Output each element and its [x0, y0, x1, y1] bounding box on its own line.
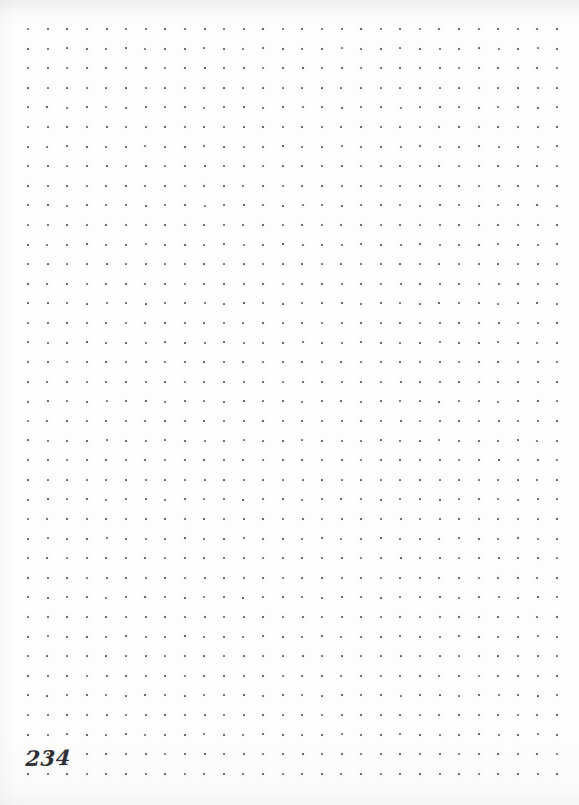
grid-dot	[498, 48, 500, 50]
grid-dot	[497, 204, 499, 206]
grid-dot	[144, 185, 146, 187]
grid-dot	[282, 263, 284, 265]
grid-dot	[399, 67, 401, 69]
grid-dot	[478, 557, 480, 559]
grid-dot	[478, 185, 480, 187]
grid-dot	[301, 420, 303, 422]
grid-dot	[536, 165, 538, 167]
grid-dot	[242, 636, 244, 638]
grid-dot	[262, 695, 264, 697]
grid-dot	[438, 675, 440, 677]
grid-dot	[223, 263, 225, 265]
grid-dot	[360, 675, 362, 677]
grid-dot	[105, 204, 107, 206]
grid-dot	[262, 204, 264, 206]
grid-dot	[399, 498, 401, 500]
grid-dot	[262, 263, 264, 265]
grid-dot	[47, 577, 49, 579]
grid-dot	[262, 518, 264, 520]
grid-dot	[184, 106, 186, 108]
grid-dot	[321, 675, 323, 677]
grid-dot	[537, 538, 539, 540]
grid-dot	[27, 302, 29, 304]
grid-dot	[86, 204, 88, 206]
grid-dot	[458, 185, 460, 187]
grid-dot	[47, 342, 49, 344]
grid-dot	[47, 479, 49, 481]
grid-dot	[242, 185, 244, 187]
grid-dot	[184, 459, 186, 461]
grid-dot	[497, 28, 499, 30]
grid-dot	[517, 753, 519, 755]
grid-dot	[301, 126, 303, 128]
grid-dot	[302, 106, 304, 108]
grid-dot	[478, 400, 480, 402]
grid-dot	[86, 734, 88, 736]
grid-dot	[419, 538, 421, 540]
grid-dot	[478, 145, 480, 147]
grid-dot	[301, 714, 303, 716]
grid-dot	[341, 557, 343, 559]
grid-dot	[145, 577, 147, 579]
grid-dot	[380, 773, 382, 775]
grid-dot	[106, 714, 108, 716]
grid-dot	[360, 616, 362, 618]
grid-dot	[517, 694, 519, 696]
grid-dot	[145, 67, 147, 69]
grid-dot	[380, 165, 382, 167]
grid-dot	[105, 597, 107, 599]
grid-dot	[458, 773, 460, 775]
grid-dot	[145, 675, 147, 677]
grid-dot	[243, 165, 245, 167]
grid-dot	[125, 440, 127, 442]
grid-dot	[86, 106, 88, 108]
grid-dot	[164, 499, 166, 501]
grid-dot	[184, 537, 186, 539]
grid-dot	[243, 753, 245, 755]
grid-dot	[204, 67, 206, 69]
grid-dot	[380, 361, 382, 363]
grid-dot	[164, 361, 166, 363]
grid-dot	[360, 146, 362, 148]
grid-dot	[399, 126, 401, 128]
grid-dot	[184, 635, 186, 637]
grid-dot	[105, 361, 107, 363]
grid-dot	[243, 146, 245, 148]
grid-dot	[125, 557, 127, 559]
grid-dot	[243, 381, 245, 383]
grid-dot	[419, 596, 421, 598]
grid-dot	[341, 28, 343, 30]
grid-dot	[86, 87, 88, 89]
grid-dot	[517, 244, 519, 246]
grid-dot	[438, 577, 440, 579]
grid-dot	[419, 753, 421, 755]
grid-dot	[458, 48, 460, 50]
grid-dot	[66, 381, 68, 383]
grid-dot	[204, 302, 206, 304]
grid-dot	[184, 361, 186, 363]
grid-dot	[27, 459, 29, 461]
grid-dot	[321, 322, 323, 324]
grid-dot	[164, 636, 166, 638]
grid-dot	[380, 400, 382, 402]
grid-dot	[419, 263, 421, 265]
grid-dot	[400, 557, 402, 559]
grid-dot	[86, 577, 88, 579]
grid-dot	[105, 499, 107, 501]
grid-dot	[204, 28, 206, 30]
grid-dot	[125, 47, 127, 49]
grid-dot	[341, 753, 343, 755]
grid-dot	[125, 204, 127, 206]
grid-dot	[66, 263, 68, 265]
grid-dot	[321, 440, 323, 442]
grid-dot	[497, 67, 499, 69]
grid-dot	[86, 126, 88, 128]
grid-dot	[458, 263, 460, 265]
grid-dot	[517, 361, 519, 363]
grid-dot	[360, 361, 362, 363]
grid-dot	[321, 753, 323, 755]
grid-dot	[125, 28, 127, 30]
grid-dot	[380, 48, 382, 50]
grid-dot	[340, 636, 342, 638]
grid-dot	[86, 67, 88, 69]
